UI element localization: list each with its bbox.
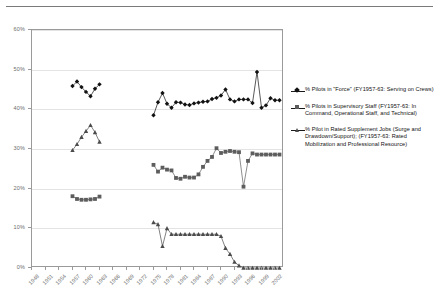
series-diamond [70, 70, 281, 118]
x-tick [126, 267, 127, 270]
x-tick [261, 267, 262, 270]
data-series-layer [32, 30, 284, 268]
x-tick [58, 267, 59, 270]
x-tick [234, 267, 235, 270]
x-tick [45, 267, 46, 270]
chart-container: 0%10%20%30%40%50%60% 1948195119541957196… [0, 0, 439, 304]
x-tick [220, 267, 221, 270]
y-tick-label: 0% [0, 264, 25, 270]
x-tick [31, 267, 32, 270]
series-square [71, 146, 282, 201]
x-tick [166, 267, 167, 270]
legend-item-supervisory: % Pilots in Supervisory Staff (FY1957-63… [291, 103, 437, 118]
x-tick [85, 267, 86, 270]
x-tick [247, 267, 248, 270]
x-tick [99, 267, 100, 270]
x-tick [274, 267, 275, 270]
y-tick-label: 50% [0, 66, 25, 72]
chart-page: 0%10%20%30%40%50%60% 1948195119541957196… [0, 0, 439, 304]
diamond-marker-icon [291, 87, 305, 95]
triangle-marker-icon [291, 127, 305, 135]
legend-label: % Pilots in "Force" (FY1957-63: Serving … [305, 86, 437, 93]
x-tick [153, 267, 154, 270]
y-tick-label: 40% [0, 105, 25, 111]
plot-area [31, 29, 283, 267]
x-tick [180, 267, 181, 270]
legend-item-rated-supplement: % Pilot in Rated Supplement Jobs (Surge … [291, 126, 437, 148]
y-tick-label: 30% [0, 145, 25, 151]
legend-label: % Pilots in Supervisory Staff (FY1957-63… [305, 103, 437, 118]
x-tick [139, 267, 140, 270]
square-marker-icon [291, 104, 305, 112]
x-tick [193, 267, 194, 270]
x-tick [207, 267, 208, 270]
x-axis: 1948195119541957196019631966196919721975… [31, 267, 283, 304]
y-tick-label: 60% [0, 26, 25, 32]
legend-label: % Pilot in Rated Supplement Jobs (Surge … [305, 126, 437, 148]
y-tick-label: 20% [0, 185, 25, 191]
y-tick-label: 10% [0, 224, 25, 230]
series-triangle [70, 123, 281, 270]
chart-legend: % Pilots in "Force" (FY1957-63: Serving … [291, 86, 437, 156]
x-tick [72, 267, 73, 270]
x-tick [112, 267, 113, 270]
legend-item-force: % Pilots in "Force" (FY1957-63: Serving … [291, 86, 437, 95]
